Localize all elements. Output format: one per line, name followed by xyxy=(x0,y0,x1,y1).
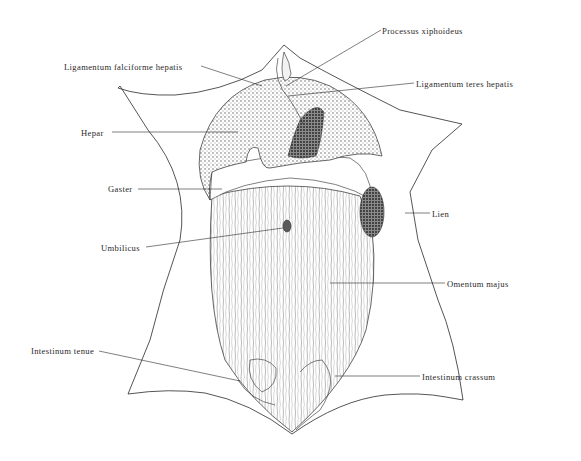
label-umbilicus: Umbilicus xyxy=(101,243,140,253)
label-gaster: Gaster xyxy=(108,184,133,194)
label-lien: Lien xyxy=(432,209,449,219)
omentum-majus-shape xyxy=(210,186,374,432)
label-intestinum-crassum: Intestinum crassum xyxy=(422,372,495,382)
lien-shape xyxy=(360,187,384,237)
processus-xiphoideus-shape xyxy=(282,52,291,80)
label-hepar: Hepar xyxy=(81,128,104,138)
label-intestinum-tenue: Intestinum tenue xyxy=(31,346,94,356)
label-ligamentum-teres-hepatis: Ligamentum teres hepatis xyxy=(416,79,513,89)
umbilicus-shape xyxy=(283,220,291,232)
label-omentum-majus: Omentum majus xyxy=(447,279,509,289)
label-ligamentum-falciforme-hepatis: Ligamentum falciforme hepatis xyxy=(64,62,183,72)
label-processus-xiphoideus: Processus xiphoideus xyxy=(382,26,463,36)
